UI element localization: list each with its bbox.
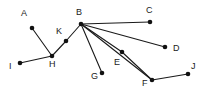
- graph-node-label-c: C: [146, 6, 153, 15]
- graph-node-h[interactable]: [50, 54, 55, 59]
- graph-edge-b-d: [81, 24, 165, 47]
- graph-node-label-i: I: [9, 62, 12, 71]
- graph-node-label-a: A: [21, 9, 27, 18]
- node-layer: [18, 20, 191, 83]
- graph-node-c[interactable]: [148, 20, 153, 25]
- graph-node-label-g: G: [91, 72, 98, 81]
- graph-node-label-k: K: [56, 27, 62, 36]
- graph-edge-h-k: [52, 41, 66, 56]
- graph-node-d[interactable]: [163, 45, 168, 50]
- graph-node-b[interactable]: [79, 22, 84, 27]
- graph-node-label-d: D: [173, 44, 180, 53]
- graph-edge-a-h: [32, 28, 52, 56]
- graph-edge-k-b: [66, 24, 81, 41]
- graph-node-e[interactable]: [120, 50, 125, 55]
- graph-node-label-f: F: [142, 79, 148, 88]
- edge-layer: [20, 22, 188, 80]
- graph-edge-i-h: [20, 56, 52, 63]
- graph-edge-e-f: [122, 52, 152, 80]
- graph-node-i[interactable]: [18, 61, 23, 66]
- graph-node-k[interactable]: [64, 39, 69, 44]
- graph-figure: ABCDEFGHIJK: [0, 0, 203, 93]
- graph-node-j[interactable]: [186, 72, 191, 77]
- graph-node-label-b: B: [76, 8, 82, 17]
- graph-node-f[interactable]: [150, 78, 155, 83]
- graph-node-g[interactable]: [100, 71, 105, 76]
- graph-node-label-j: J: [191, 62, 196, 71]
- graph-node-label-h: H: [49, 60, 56, 69]
- graph-edge-f-j: [152, 74, 188, 80]
- graph-node-a[interactable]: [30, 26, 35, 31]
- graph-edge-b-c: [81, 22, 150, 24]
- graph-node-label-e: E: [114, 58, 120, 67]
